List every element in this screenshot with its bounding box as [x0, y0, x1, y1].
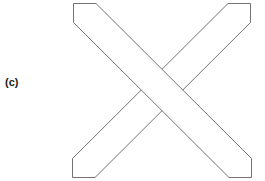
figure-panel: (c) [0, 0, 265, 181]
figure-label: (c) [5, 75, 18, 89]
x-shape-diagram [0, 0, 265, 181]
